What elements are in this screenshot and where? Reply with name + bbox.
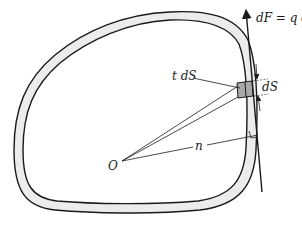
force-label: dF = q dS [256,11,302,25]
origin-label: O [108,159,118,173]
wall-element [237,81,253,98]
diagram-canvas: dF = q dS t dS dS n O [0,0,302,225]
normal-distance-label: n [195,139,203,153]
closed-section-wall [14,12,257,213]
area-element-label: t dS [172,69,197,83]
inner-boundary [23,20,247,204]
arc-length-label: dS [262,80,278,94]
